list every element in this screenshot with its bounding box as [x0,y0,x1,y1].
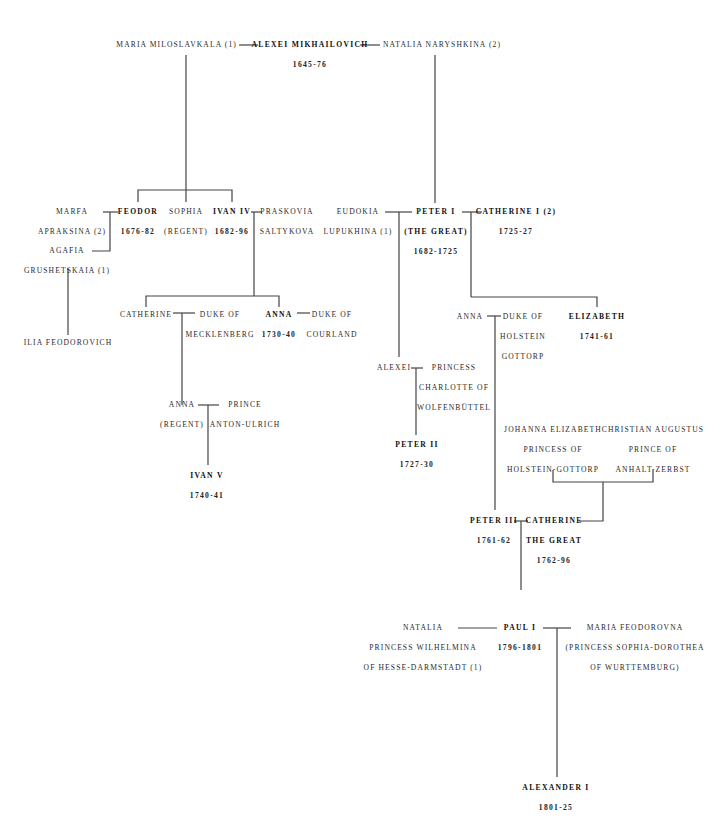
name-line: THE GREAT [525,531,582,551]
name-line: OF HESSE-DARMSTADT (1) [364,658,483,678]
node-natalia-naryshkina: NATALIA NARYSHKINA (2) [383,35,501,55]
name-line: ALEXANDER I [522,778,589,798]
name-line: (PRINCESS SOPHIA-DOROTHEA [565,638,704,658]
node-christian-augustus: CHRISTIAN AUGUSTUS PRINCE OF ANHALT-ZERB… [602,420,704,480]
node-alexander-i: ALEXANDER I 1801-25 [522,778,589,818]
name-line: SOPHIA [164,202,208,222]
name-line: IVAN V [190,466,224,486]
node-agafia-grushetskaia: AGAFIA GRUSHETSKAIA (1) [24,241,110,281]
name-line: PETER III [470,511,518,531]
reign-years: 1796-1801 [498,638,543,658]
reign-years: 1741-61 [569,327,625,347]
name-line: MECKLENBERG [185,325,254,345]
node-eudokia-lupukhina: EUDOKIA LUPUKHINA (1) [324,202,393,242]
node-anna-petrovna: ANNA [457,307,483,327]
name-line: COURLAND [307,325,358,345]
name-line: (REGENT) [160,415,204,435]
name-line: PRINCESS [417,358,491,378]
name-line: PAUL I [498,618,543,638]
name-line: GRUSHETSKAIA (1) [24,261,110,281]
reign-years: 1761-62 [470,531,518,551]
node-ivan-v: IVAN V 1740-41 [190,466,224,506]
node-anna-ivanovna: ANNA 1730-40 [262,305,296,345]
reign-years: 1762-96 [525,551,582,571]
reign-years: 1676-82 [118,222,158,242]
name-line: ANNA [160,395,204,415]
name-line: PRASKOVIA [260,202,315,222]
name-line: ANNA [262,305,296,325]
name-line: HOLSTEIN-GOTTORP [504,460,602,480]
node-peter-i: PETER I (THE GREAT) 1682-1725 [404,202,468,262]
reign-years: 1682-96 [213,222,251,242]
reign-years: 1682-1725 [404,242,468,262]
node-prince-anton-ulrich: PRINCE ANTON-ULRICH [210,395,280,435]
reign-years: 1645-76 [252,55,369,75]
name-line: ALEXEI [377,358,411,378]
name-line: CATHERINE [525,511,582,531]
name-line: DUKE OF [185,305,254,325]
node-ilia-feodorovich: ILIA FEODOROVICH [24,333,113,353]
node-anna-regent: ANNA (REGENT) [160,395,204,435]
name-line: GOTTORP [500,347,546,367]
connector-lines [0,0,726,830]
name-line: LUPUKHINA (1) [324,222,393,242]
name-line: WOLFENBÜTTEL [417,398,491,418]
node-johanna-elizabeth: JOHANNA ELIZABETH PRINCESS OF HOLSTEIN-G… [504,420,602,480]
node-marfa-apraksina: MARFA APRAKSINA (2) [38,202,106,242]
node-praskovia-saltykova: PRASKOVIA SALTYKOVA [260,202,315,242]
name-line: NATALIA NARYSHKINA (2) [383,35,501,55]
node-ivan-iv: IVAN IV 1682-96 [213,202,251,242]
name-line: ANNA [457,307,483,327]
node-feodor: FEODOR 1676-82 [118,202,158,242]
node-maria-feodorovna: MARIA FEODOROVNA (PRINCESS SOPHIA-DOROTH… [565,618,704,678]
name-line: CHRISTIAN AUGUSTUS [602,420,704,440]
name-line: JOHANNA ELIZABETH [504,420,602,440]
romanov-family-tree: MARIA MILOSLAVKALA (1) ALEXEI MIKHAILOVI… [0,0,726,830]
name-line: (REGENT) [164,222,208,242]
name-line: HOLSTEIN [500,327,546,347]
node-alexei-mikhailovich: ALEXEI MIKHAILOVICH 1645-76 [252,35,369,75]
node-duke-of-mecklenberg: DUKE OF MECKLENBERG [185,305,254,345]
reign-years: 1725-27 [476,222,557,242]
node-elizabeth: ELIZABETH 1741-61 [569,307,625,347]
reign-years: 1801-25 [522,798,589,818]
reign-years: 1730-40 [262,325,296,345]
name-line: ANHALT-ZERBST [602,460,704,480]
node-duke-of-holstein-gottorp: DUKE OF HOLSTEIN GOTTORP [500,307,546,367]
name-line: DUKE OF [307,305,358,325]
name-line: (THE GREAT) [404,222,468,242]
name-line: MARIA FEODOROVNA [565,618,704,638]
name-line: ALEXEI MIKHAILOVICH [252,35,369,55]
name-line: CATHERINE I (2) [476,202,557,222]
node-princess-charlotte: PRINCESS CHARLOTTE OF WOLFENBÜTTEL [417,358,491,418]
node-peter-ii: PETER II 1727-30 [395,435,439,475]
reign-years: 1740-41 [190,486,224,506]
name-line: FEODOR [118,202,158,222]
reign-years: 1727-30 [395,455,439,475]
name-line: AGAFIA [24,241,110,261]
name-line: CATHERINE [120,305,172,325]
node-paul-i: PAUL I 1796-1801 [498,618,543,658]
name-line: PRINCE [210,395,280,415]
name-line: PRINCESS WILHELMINA [364,638,483,658]
name-line: SALTYKOVA [260,222,315,242]
node-peter-iii: PETER III 1761-62 [470,511,518,551]
name-line: PETER II [395,435,439,455]
node-catherine-ivanovna: CATHERINE [120,305,172,325]
name-line: PRINCESS OF [504,440,602,460]
name-line: ANTON-ULRICH [210,415,280,435]
name-line: MARFA [38,202,106,222]
name-line: ILIA FEODOROVICH [24,333,113,353]
node-natalia-wilhelmina: NATALIA PRINCESS WILHELMINA OF HESSE-DAR… [364,618,483,678]
node-catherine-i: CATHERINE I (2) 1725-27 [476,202,557,242]
name-line: DUKE OF [500,307,546,327]
name-line: MARIA MILOSLAVKALA (1) [116,35,237,55]
node-catherine-the-great: CATHERINE THE GREAT 1762-96 [525,511,582,571]
name-line: OF WURTTEMBURG) [565,658,704,678]
name-line: NATALIA [364,618,483,638]
node-maria-miloslavkala: MARIA MILOSLAVKALA (1) [116,35,237,55]
node-sophia: SOPHIA (REGENT) [164,202,208,242]
name-line: APRAKSINA (2) [38,222,106,242]
name-line: IVAN IV [213,202,251,222]
name-line: PRINCE OF [602,440,704,460]
